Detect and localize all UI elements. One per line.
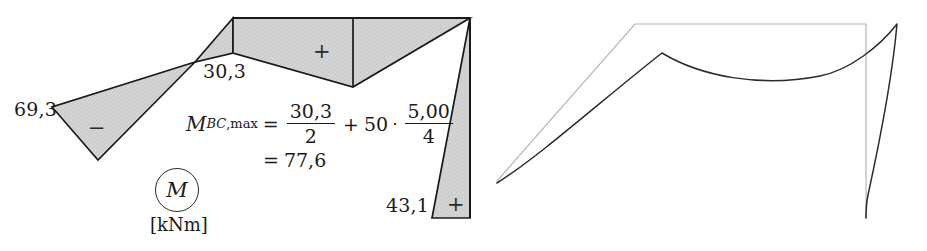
label-moment-knee-value: 30,3 (203, 62, 246, 81)
structural-diagram-figure: 69,3 30,3 43,1 − + + MBC,max = 30,3 2 + … (0, 0, 927, 251)
formula-result-equals: = (263, 149, 279, 171)
formula-result: 77,6 (284, 149, 326, 171)
sign-positive-column: + (447, 194, 465, 215)
sign-negative-left: − (88, 118, 106, 139)
formula-fraction-2-numerator: 5,00 (405, 100, 453, 123)
formula-mbc-max: MBC,max = 30,3 2 + 50 · 5,00 4 = 77,6 (186, 100, 456, 171)
formula-fraction-1-numerator: 30,3 (287, 100, 335, 123)
formula-fraction-1: 30,3 2 (287, 100, 335, 147)
formula-fraction-2-denominator: 4 (420, 124, 438, 147)
sign-positive-span: + (313, 41, 331, 62)
formula-equals: = (263, 113, 279, 135)
elastic-curve (497, 24, 897, 218)
diagram-unit-label: [kNm] (150, 216, 208, 234)
label-moment-right-value: 43,1 (386, 196, 429, 215)
formula-multiplication-dot: · (392, 114, 397, 134)
formula-fraction-2: 5,00 4 (405, 100, 453, 147)
undeformed-frame-outline (497, 24, 866, 218)
formula-plus: + (343, 113, 359, 135)
formula-lhs-subscript-italic: BC (206, 116, 226, 131)
formula-factor: 50 (364, 113, 388, 135)
formula-lhs-symbol: M (186, 112, 206, 136)
formula-fraction-1-denominator: 2 (302, 124, 320, 147)
formula-line-2: = 77,6 (186, 149, 456, 171)
label-moment-left-value: 69,3 (14, 100, 57, 119)
diagram-symbol-badge: M (155, 168, 199, 212)
formula-line-1: MBC,max = 30,3 2 + 50 · 5,00 4 (186, 100, 456, 147)
formula-lhs-subscript-roman: ,max (226, 116, 258, 131)
